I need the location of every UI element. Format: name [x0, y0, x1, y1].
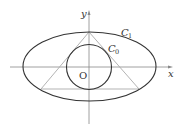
- ellipse-label-subscript: 1: [128, 32, 132, 40]
- diagram-canvas: y x O C 1 C 0: [0, 0, 186, 130]
- y-axis-label: y: [80, 8, 87, 19]
- x-axis-label: x: [168, 68, 174, 79]
- triangle: [41, 32, 139, 89]
- origin-label: O: [79, 70, 87, 81]
- ellipse-c1: [23, 32, 156, 101]
- y-axis-arrow-icon: [88, 10, 91, 15]
- circle-label-subscript: 0: [115, 48, 119, 56]
